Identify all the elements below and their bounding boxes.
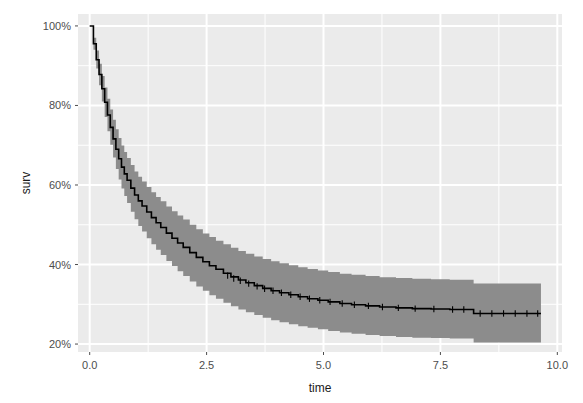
x-axis-tick-label: 0.0 — [82, 359, 97, 371]
x-axis-title: time — [309, 381, 332, 395]
x-axis-tick-label: 5.0 — [316, 359, 331, 371]
y-axis-tick-label: 40% — [49, 259, 71, 271]
x-axis-tick-label: 2.5 — [199, 359, 214, 371]
chart-canvas: 20%40%60%80%100% 0.02.55.07.510.0 time s… — [0, 0, 583, 403]
y-axis-tick-label: 20% — [49, 338, 71, 350]
y-axis-title: surv — [19, 172, 33, 195]
x-axis-tick-label: 7.5 — [433, 359, 448, 371]
x-axis-tick-label: 10.0 — [547, 359, 568, 371]
survival-plot-figure: 20%40%60%80%100% 0.02.55.07.510.0 time s… — [0, 0, 583, 403]
y-axis-tick-label: 80% — [49, 99, 71, 111]
y-axis-tick-label: 60% — [49, 179, 71, 191]
y-axis-tick-label: 100% — [43, 20, 71, 32]
